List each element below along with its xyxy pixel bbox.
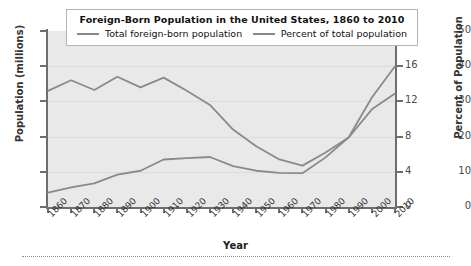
- legend-line-icon: [253, 33, 275, 35]
- legend: Foreign-Born Population in the United St…: [66, 9, 418, 46]
- y-axis-title-right: Percent of Population: [453, 3, 464, 153]
- chart-title: Foreign-Born Population in the United St…: [67, 14, 417, 25]
- chart-figure: 0 10 20 30 40 50 0 4 8 12 16 20 18601870…: [0, 0, 471, 266]
- gridline: [48, 172, 395, 173]
- tick-left: [40, 206, 47, 208]
- tick-right: [396, 136, 403, 138]
- y-tick-label-left: 10: [433, 166, 471, 176]
- x-axis-title: Year: [0, 240, 471, 251]
- plot-area: [48, 31, 395, 207]
- y-tick-label-right: 4: [405, 166, 431, 176]
- legend-line-icon: [77, 33, 99, 35]
- y-tick-label-left: 0: [433, 201, 471, 211]
- tick-left: [40, 65, 47, 67]
- tick-left: [40, 30, 47, 32]
- footer-divider: [22, 256, 450, 257]
- tick-left: [40, 171, 47, 173]
- legend-item-percent-of-total-population: Percent of total population: [253, 28, 407, 39]
- tick-right: [396, 100, 403, 102]
- y-axis-title-left: Population (millions): [14, 9, 25, 159]
- y-tick-label-right: 16: [405, 60, 431, 70]
- legend-label: Percent of total population: [281, 28, 407, 39]
- tick-right: [396, 65, 403, 67]
- y-axis-left: [46, 29, 48, 209]
- legend-entries: Total foreign-born population Percent of…: [67, 25, 417, 39]
- gridline: [48, 66, 395, 67]
- y-axis-right: [395, 29, 397, 209]
- y-tick-label-right: 8: [405, 131, 431, 141]
- gridline: [48, 101, 395, 102]
- tick-right: [396, 171, 403, 173]
- y-tick-label-right: 12: [405, 95, 431, 105]
- tick-left: [40, 136, 47, 138]
- tick-left: [40, 100, 47, 102]
- gridline: [48, 137, 395, 138]
- legend-item-total-foreign-born-population: Total foreign-born population: [77, 28, 242, 39]
- legend-label: Total foreign-born population: [105, 28, 242, 39]
